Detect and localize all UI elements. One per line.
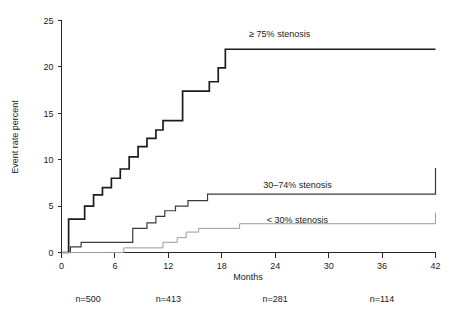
series-label-2: 30–74% stenosis	[263, 180, 332, 190]
y-tick-label-20: 20	[43, 62, 53, 72]
series-label-1: ≥ 75% stenosis	[249, 29, 310, 39]
at-risk-label-1: n=500	[76, 294, 101, 304]
y-axis-ticks	[58, 21, 62, 253]
y-tick-label-15: 15	[43, 109, 53, 119]
x-tick-label-6: 6	[112, 261, 117, 271]
y-tick-label-25: 25	[43, 16, 53, 26]
series-line-3	[62, 213, 436, 253]
y-tick-label-0: 0	[48, 248, 53, 258]
series-label-3: < 30% stenosis	[267, 215, 329, 225]
series-curves	[62, 49, 436, 252]
x-axis-ticks	[62, 253, 436, 258]
numbers-at-risk-row: n=500n=413n=281n=114	[76, 294, 395, 304]
chart-figure: 0510152025 06121824303642 Months Event r…	[0, 0, 460, 315]
series-line-1	[62, 49, 436, 252]
y-tick-label-10: 10	[43, 155, 53, 165]
series-annotations: ≥ 75% stenosis30–74% stenosis< 30% steno…	[249, 29, 332, 225]
y-axis-title: Event rate percent	[10, 100, 20, 174]
x-tick-label-42: 42	[430, 261, 440, 271]
series-line-2	[62, 168, 436, 252]
at-risk-label-4: n=114	[370, 294, 395, 304]
x-tick-label-18: 18	[217, 261, 227, 271]
x-tick-label-30: 30	[324, 261, 334, 271]
at-risk-label-2: n=413	[156, 294, 181, 304]
at-risk-label-3: n=281	[263, 294, 288, 304]
x-axis-title: Months	[233, 272, 263, 282]
event-rate-line-chart: 0510152025 06121824303642 Months Event r…	[0, 0, 460, 315]
y-axis-tick-labels: 0510152025	[43, 16, 53, 258]
x-axis-tick-labels: 06121824303642	[59, 261, 441, 271]
x-tick-label-36: 36	[377, 261, 387, 271]
y-tick-label-5: 5	[48, 201, 53, 211]
x-tick-label-24: 24	[270, 261, 280, 271]
x-tick-label-0: 0	[59, 261, 64, 271]
x-tick-label-12: 12	[163, 261, 173, 271]
axes	[58, 21, 436, 258]
